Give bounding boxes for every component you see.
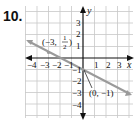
y-tick: 3 xyxy=(76,18,81,28)
point-neg3-half xyxy=(47,51,50,54)
svg-text:(−3,: (−3, xyxy=(42,37,57,47)
y-axis-arrow-up xyxy=(80,6,86,13)
x-tick: −3 xyxy=(40,60,50,70)
svg-text:2: 2 xyxy=(63,43,67,51)
x-tick: 1 xyxy=(94,60,99,70)
y-tick-neg2: −2 xyxy=(72,76,82,86)
svg-text:): ) xyxy=(69,37,72,47)
svg-text:1: 1 xyxy=(63,34,67,42)
x-tick: −4 xyxy=(27,60,37,70)
y-tick-neg3: −3 xyxy=(72,88,82,98)
x-tick: 3 xyxy=(117,60,122,70)
x-tick: 2 xyxy=(106,60,111,70)
y-tick-neg4: −4 xyxy=(72,100,82,110)
y-tick: 1 xyxy=(76,41,81,51)
point-label-2: (0, −1) xyxy=(89,88,114,98)
y-axis-label: y xyxy=(86,5,92,16)
coordinate-graph: y x −4 −3 −2 −1 1 2 3 3 2 1 −1 −2 −3 −4 … xyxy=(0,0,137,127)
y-axis-arrow-down xyxy=(80,113,86,120)
y-tick-neg1: −1 xyxy=(72,65,82,75)
point-label-1: (−3, 1 2 ) xyxy=(42,34,72,51)
y-tick: 2 xyxy=(76,29,81,39)
x-axis-label: x xyxy=(126,59,132,70)
line-arrow-left xyxy=(26,40,33,45)
x-tick: −2 xyxy=(52,60,62,70)
